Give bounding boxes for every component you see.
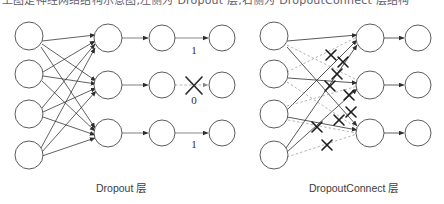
output-node [209, 120, 235, 146]
neural-network-figure: 1 0 1 [0, 0, 444, 204]
mask-node [149, 25, 175, 51]
cross-mark [326, 50, 336, 60]
dropout-hidden-to-mask-edges [122, 38, 148, 133]
output-node [405, 72, 431, 98]
input-node [15, 60, 43, 88]
dropout-dense-edges [41, 35, 96, 156]
cross-mark [332, 69, 342, 79]
input-node [15, 22, 43, 50]
edge [43, 117, 95, 135]
output-node [405, 25, 431, 51]
edge-kept [287, 35, 357, 41]
output-node [209, 72, 235, 98]
input-node [260, 141, 288, 169]
hidden-node [94, 71, 122, 99]
caption-dropconnect: DropoutConnect 层 [309, 180, 398, 195]
cross-mark [325, 81, 335, 91]
edge-kept [288, 78, 357, 83]
input-node [260, 60, 288, 88]
mask-node [149, 120, 175, 146]
cross-mark [312, 122, 322, 132]
mask-label-1: 1 [191, 138, 197, 150]
input-node [260, 22, 288, 50]
edge [42, 35, 95, 41]
dropconnect-nodes [260, 22, 431, 169]
input-node [260, 100, 288, 128]
hidden-node [94, 24, 122, 52]
edge [43, 41, 95, 72]
dropconnect-output-edges [384, 38, 404, 133]
mask-label-0: 0 [191, 94, 197, 106]
output-node [209, 25, 235, 51]
mask-label-1: 1 [191, 44, 197, 56]
cross-mark [346, 107, 356, 117]
edge [42, 138, 95, 156]
cross-mark [334, 115, 344, 125]
hidden-node [356, 71, 384, 99]
dropout-mask-labels: 1 0 1 [191, 44, 197, 150]
edge-kept [287, 117, 357, 130]
edge [41, 48, 95, 148]
hidden-node [356, 119, 384, 147]
hidden-node [356, 24, 384, 52]
hidden-node [94, 119, 122, 147]
caption-dropout: Dropout 层 [96, 180, 146, 195]
output-node [405, 120, 431, 146]
edge [42, 44, 95, 108]
edge [43, 76, 96, 84]
dropout-nodes [15, 22, 235, 169]
edge-dropped [287, 37, 357, 72]
input-node [15, 100, 43, 128]
edge-dropped [287, 134, 357, 157]
input-node [15, 141, 43, 169]
panel-dropconnect [260, 22, 431, 169]
panel-dropout: 1 0 1 [15, 22, 235, 169]
dropconnect-kept-edges [286, 35, 357, 152]
mask-node [149, 72, 175, 98]
cross-mark [344, 90, 354, 100]
